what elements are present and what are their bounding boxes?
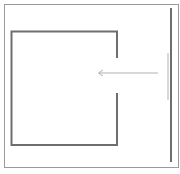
wall-highlight bbox=[167, 53, 169, 100]
diagram-canvas bbox=[0, 0, 180, 174]
outer-frame bbox=[5, 5, 179, 168]
